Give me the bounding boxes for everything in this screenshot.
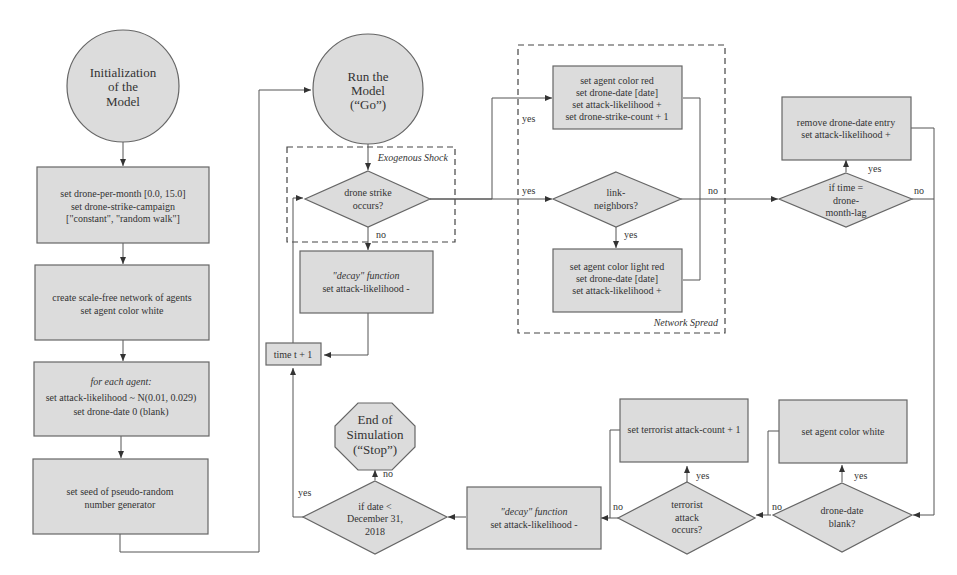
- svg-text:(“Stop”): (“Stop”): [353, 442, 397, 457]
- node-set-drone-parameters: set drone-per-month [0.0, 15.0] set dron…: [37, 167, 209, 243]
- node-drone-strike-occurs: drone strike occurs?: [305, 171, 430, 227]
- svg-text:Run the: Run the: [348, 69, 389, 84]
- svg-text:End of: End of: [357, 412, 393, 427]
- svg-text:["constant", "random walk"]: ["constant", "random walk"]: [66, 213, 180, 224]
- edge-label-strike-no: no: [376, 229, 386, 240]
- svg-text:set drone-date [date]: set drone-date [date]: [576, 273, 658, 284]
- edge-red-light-red-join: [683, 98, 700, 280]
- svg-text:set attack-likelihood +: set attack-likelihood +: [572, 285, 662, 296]
- svg-text:"decay" function: "decay" function: [333, 270, 400, 281]
- svg-text:of the: of the: [108, 79, 138, 94]
- node-set-red: set agent color red set drone-date [date…: [553, 66, 682, 129]
- svg-text:attack: attack: [675, 512, 699, 523]
- node-drone-date-blank: drone-date blank?: [773, 483, 912, 552]
- edge-label-lag-yes: yes: [868, 163, 881, 174]
- svg-text:create scale-free network of a: create scale-free network of agents: [52, 292, 191, 303]
- svg-text:set attack-likelihood +: set attack-likelihood +: [572, 99, 662, 110]
- svg-text:if date <: if date <: [358, 501, 392, 512]
- svg-text:set seed of pseudo-random: set seed of pseudo-random: [67, 486, 174, 497]
- node-decay-top: "decay" function set attack-likelihood -: [300, 251, 433, 313]
- svg-text:set terrorist attack-count + 1: set terrorist attack-count + 1: [628, 424, 741, 435]
- svg-text:set attack-likelihood ~ N(0.01: set attack-likelihood ~ N(0.01, 0.029): [46, 392, 197, 404]
- svg-text:remove drone-date entry: remove drone-date entry: [797, 117, 895, 128]
- svg-text:Model: Model: [106, 94, 140, 109]
- svg-text:set drone-strike-count + 1: set drone-strike-count + 1: [565, 111, 668, 122]
- flowchart-diagram: Exogenous Shock Network Spread: [0, 0, 957, 575]
- node-time-lag-check: if time = drone- month-lag: [779, 173, 912, 227]
- node-set-light-red: set agent color light red set drone-date…: [553, 249, 682, 312]
- svg-text:set agent color red: set agent color red: [580, 75, 654, 86]
- group-label-exogenous-shock: Exogenous Shock: [377, 152, 449, 163]
- svg-text:"decay" function: "decay" function: [501, 506, 568, 517]
- edge-label-attack-no: no: [613, 501, 623, 512]
- edge-label-link-no: no: [708, 185, 718, 196]
- svg-text:Model: Model: [351, 83, 385, 98]
- edge-label-lag-no: no: [914, 185, 924, 196]
- node-date-check: if date < December 31, 2018: [303, 481, 447, 554]
- edge-label-strike-yes-top: yes: [522, 113, 535, 124]
- node-initialization: Initialization of the Model: [67, 30, 179, 142]
- svg-text:(“Go”): (“Go”): [350, 97, 386, 112]
- svg-text:occurs?: occurs?: [353, 200, 384, 211]
- node-time-increment: time t + 1: [266, 343, 321, 365]
- node-create-network: create scale-free network of agents set …: [35, 265, 209, 340]
- node-end-simulation: End of Simulation (“Stop”): [335, 403, 415, 470]
- svg-text:set attack-likelihood -: set attack-likelihood -: [322, 283, 409, 294]
- svg-text:link-: link-: [607, 187, 626, 198]
- svg-text:for each agent:: for each agent:: [90, 376, 151, 387]
- node-each-agent: for each agent: set attack-likelihood ~ …: [34, 362, 209, 436]
- node-attack-count: set terrorist attack-count + 1: [620, 399, 748, 462]
- svg-text:time t + 1: time t + 1: [274, 349, 313, 360]
- svg-text:set drone-strike-campaign: set drone-strike-campaign: [71, 201, 175, 212]
- edge-label-strike-yes-mid: yes: [522, 185, 535, 196]
- edge-decay-to-time: [324, 313, 368, 355]
- edge-label-link-yes: yes: [624, 229, 637, 240]
- svg-text:drone-: drone-: [833, 195, 859, 206]
- svg-text:set attack-likelihood +: set attack-likelihood +: [801, 129, 891, 140]
- svg-text:neighbors?: neighbors?: [594, 200, 638, 211]
- svg-text:set agent color white: set agent color white: [801, 426, 885, 437]
- svg-text:occurs?: occurs?: [672, 524, 703, 535]
- node-set-white: set agent color white: [779, 400, 907, 463]
- edge-label-blank-yes: yes: [854, 470, 867, 481]
- node-seed: set seed of pseudo-random number generat…: [33, 459, 208, 534]
- svg-text:drone strike: drone strike: [344, 187, 392, 198]
- svg-text:December 31,: December 31,: [347, 513, 403, 524]
- node-run-model: Run the Model (“Go”): [313, 34, 423, 144]
- edge-label-attack-yes: yes: [696, 470, 709, 481]
- node-remove-drone-date: remove drone-date entry set attack-likel…: [782, 97, 911, 160]
- svg-text:set agent color light red: set agent color light red: [570, 261, 664, 272]
- svg-text:Simulation: Simulation: [346, 427, 404, 442]
- edge-label-date-yes: yes: [298, 487, 311, 498]
- svg-text:set drone-date [date]: set drone-date [date]: [576, 87, 658, 98]
- svg-text:blank?: blank?: [829, 518, 856, 529]
- node-attack-occurs: terrorist attack occurs?: [618, 482, 755, 554]
- svg-text:set attack-likelihood -: set attack-likelihood -: [490, 519, 577, 530]
- node-link-neighbors: link- neighbors?: [553, 172, 681, 227]
- svg-text:2018: 2018: [365, 526, 385, 537]
- svg-text:set drone-date 0 (blank): set drone-date 0 (blank): [73, 406, 168, 418]
- svg-text:terrorist: terrorist: [671, 499, 703, 510]
- svg-text:Initialization: Initialization: [90, 65, 157, 80]
- svg-text:if time =: if time =: [829, 182, 864, 193]
- node-decay-bottom: "decay" function set attack-likelihood -: [467, 487, 601, 549]
- svg-text:month-lag: month-lag: [825, 207, 866, 218]
- svg-text:set drone-per-month [0.0, 15.0: set drone-per-month [0.0, 15.0]: [60, 188, 185, 199]
- svg-text:set agent color white: set agent color white: [80, 305, 164, 316]
- edge-label-blank-no: no: [772, 501, 782, 512]
- svg-text:number generator: number generator: [85, 499, 156, 510]
- group-label-network-spread: Network Spread: [653, 317, 719, 328]
- svg-text:drone-date: drone-date: [821, 505, 864, 516]
